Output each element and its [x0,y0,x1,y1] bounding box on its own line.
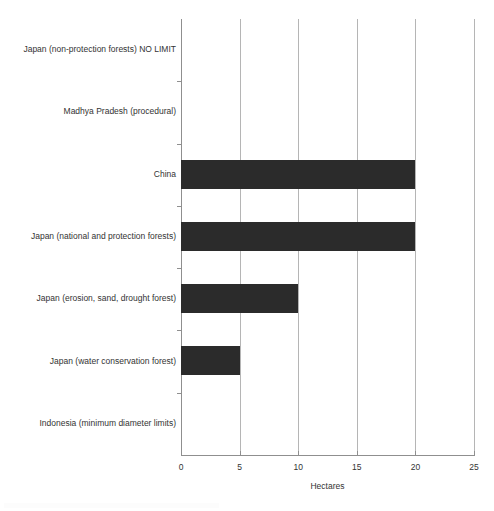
y-axis-label: Japan (water conservation forest) [0,357,176,366]
y-axis-tick [177,330,181,331]
gridline-25 [474,19,475,455]
x-axis-tick-label: 10 [283,463,313,472]
bar [181,160,415,189]
y-axis-tick [177,144,181,145]
plot-area [181,19,474,455]
x-axis-tick [474,451,475,456]
y-axis-label: China [0,170,176,179]
y-axis-label: Indonesia (minimum diameter limits) [0,419,176,428]
x-axis-tick-label: 15 [342,463,372,472]
x-axis-tick [357,451,358,456]
y-axis-tick [177,268,181,269]
gridline-20 [415,19,416,455]
y-axis-tick [177,81,181,82]
y-axis-tick [177,393,181,394]
x-axis-title: Hectares [181,482,474,491]
y-axis-label: Japan (erosion, sand, drought forest) [0,294,176,303]
x-axis-tick-label: 20 [400,463,430,472]
x-axis-tick [415,451,416,456]
y-axis-tick [177,206,181,207]
bar [181,222,415,251]
page-edge-artifact [4,503,219,508]
bar-chart: Japan (non-protection forests) NO LIMITM… [0,0,494,511]
x-axis-tick-label: 5 [225,463,255,472]
y-axis-label: Japan (non-protection forests) NO LIMIT [0,45,176,54]
bar [181,284,298,313]
x-axis-tick [181,451,182,456]
x-axis-tick-label: 25 [459,463,489,472]
x-axis-line [181,455,474,456]
y-axis-label: Japan (national and protection forests) [0,232,176,241]
x-axis-tick [240,451,241,456]
bar [181,346,240,375]
x-axis-tick [298,451,299,456]
x-axis-tick-label: 0 [166,463,196,472]
y-axis-label: Madhya Pradesh (procedural) [0,107,176,116]
